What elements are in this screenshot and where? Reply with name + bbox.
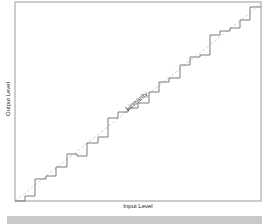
bottom-bar — [7, 216, 262, 224]
chart-plot: Linearity — [0, 0, 267, 224]
y-axis-label: Output Level — [5, 77, 11, 121]
x-axis-label: Input Level — [108, 203, 168, 209]
